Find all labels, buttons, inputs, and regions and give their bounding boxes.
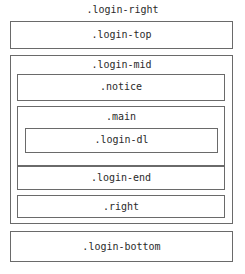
right-box: .right	[17, 195, 225, 218]
login-bottom-label: .login-bottom	[11, 241, 232, 253]
notice-label: .notice	[18, 81, 224, 93]
notice-box: .notice	[17, 74, 225, 101]
login-end-box: .login-end	[17, 166, 225, 190]
right-label: .right	[18, 201, 224, 213]
login-top-box: .login-top	[10, 21, 233, 49]
login-right-label: .login-right	[0, 4, 245, 16]
login-right-container: .login-right .login-top .login-mid .noti…	[0, 0, 245, 274]
login-top-label: .login-top	[11, 29, 232, 41]
login-end-label: .login-end	[18, 172, 224, 184]
login-dl-box: .login-dl	[25, 128, 218, 153]
main-box: .main .login-dl	[17, 106, 225, 166]
login-dl-label: .login-dl	[26, 134, 217, 146]
login-bottom-box: .login-bottom	[10, 231, 233, 262]
login-mid-box: .login-mid .notice .main .login-dl .logi…	[10, 55, 233, 224]
main-label: .main	[18, 111, 224, 123]
login-mid-label: .login-mid	[11, 59, 232, 71]
